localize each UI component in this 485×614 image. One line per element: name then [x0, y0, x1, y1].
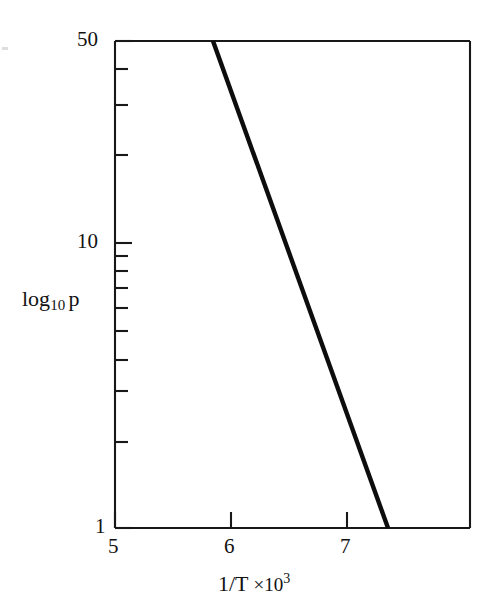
- y-axis-title: log10p: [22, 288, 80, 313]
- y-axis-title-subscript: 10: [50, 297, 65, 313]
- data-series-vapour-pressure-line: [213, 41, 388, 528]
- x-axis-title-base: 1/T: [218, 571, 249, 596]
- y-axis-major-ticks: [115, 41, 132, 528]
- x-axis-title-exponent: 3: [283, 571, 290, 586]
- figure-panel: 50 10 1 5 6 7 log10p 1/T×103: [0, 0, 485, 614]
- y-axis-title-base: log: [22, 286, 50, 311]
- y-tick-label-10: 10: [77, 231, 98, 252]
- x-axis-ticks: [115, 512, 347, 528]
- y-tick-label-1: 1: [95, 516, 106, 537]
- x-tick-label-7: 7: [340, 536, 351, 557]
- x-tick-label-5: 5: [108, 536, 119, 557]
- axes-frame: [115, 41, 470, 528]
- x-tick-label-6: 6: [224, 536, 235, 557]
- y-axis-title-variable: p: [66, 286, 80, 311]
- data-line: [213, 41, 388, 528]
- x-axis-title: 1/T×103: [218, 572, 290, 595]
- y-tick-label-50: 50: [77, 29, 98, 50]
- y-axis-minor-ticks: [115, 69, 128, 442]
- x-axis-title-times: ×10: [249, 574, 284, 595]
